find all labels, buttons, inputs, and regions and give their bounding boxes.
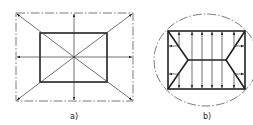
panel-a: a) xyxy=(16,13,133,121)
arrow-top-left xyxy=(17,14,74,57)
hip-right xyxy=(226,31,245,89)
arrow-top-right xyxy=(74,14,132,57)
panel-b-label: b) xyxy=(203,112,211,121)
figure-canvas: a) b) xyxy=(0,0,253,125)
arrow-bottom-right xyxy=(74,57,132,100)
hip-left xyxy=(168,31,188,89)
panel-b: b) xyxy=(154,14,253,121)
panel-a-label: a) xyxy=(70,112,78,121)
arrow-bottom-left xyxy=(17,57,74,100)
